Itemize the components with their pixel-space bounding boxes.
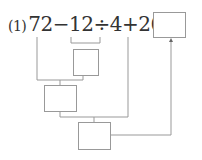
connector-lines — [0, 0, 202, 160]
bracket-division — [71, 37, 100, 43]
connector-26-step2 — [60, 37, 128, 117]
connector-step3-answer — [111, 40, 171, 135]
arrow-up-icon — [169, 38, 173, 42]
